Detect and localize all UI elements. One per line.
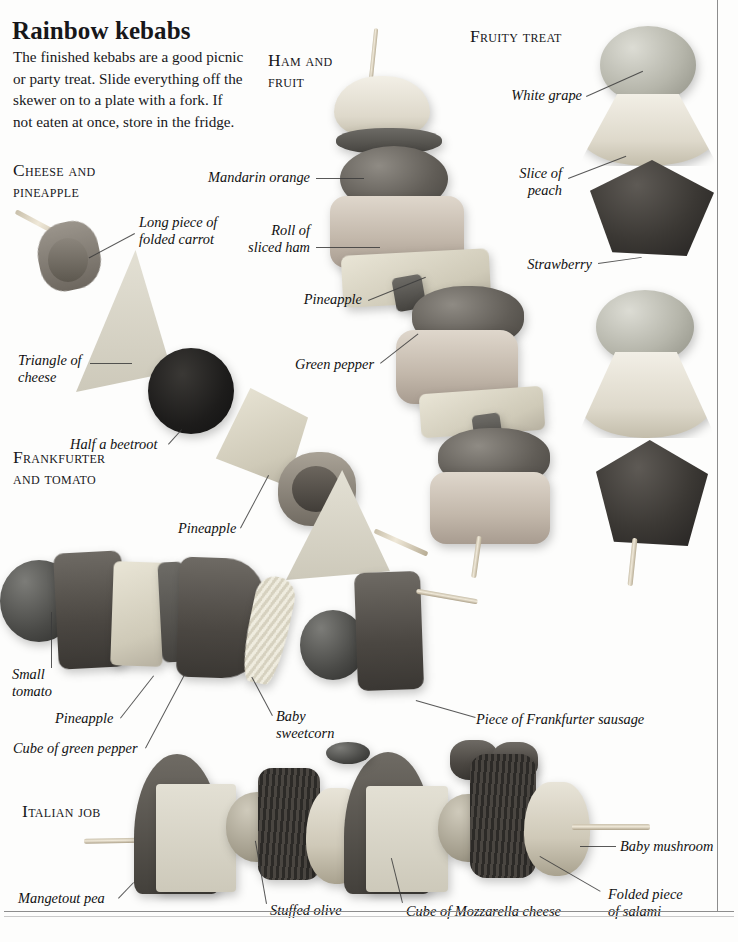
label-baby-mushroom: Baby mushroom — [620, 838, 713, 855]
label-half-a-beetroot: Half a beetroot — [70, 436, 157, 453]
page-border-right — [717, 0, 718, 912]
label-piece-of-frankfurter-sausage: Piece of Frankfurter sausage — [476, 711, 644, 728]
food-strawberry — [590, 160, 714, 256]
skewer-tip — [416, 589, 478, 605]
leader-line-roll-of-sliced-ham — [316, 247, 380, 248]
skewer-tip — [572, 824, 650, 830]
leader-line-mandarin-orange — [316, 178, 364, 179]
page-border-bottom-secondary — [4, 916, 734, 917]
leader-line-baby-mushroom — [580, 846, 616, 847]
leader-line-triangle-of-cheese — [90, 363, 132, 364]
section-heading-cheese-and-pineapple: Cheese and pineapple — [13, 160, 95, 203]
label-pineapple-ham: Pineapple — [220, 291, 362, 308]
label-white-grape: White grape — [470, 87, 582, 104]
label-pineapple-mid: Pineapple — [178, 520, 236, 537]
food-frankfurter-piece-3 — [354, 571, 424, 691]
section-heading-ham-and-fruit: Ham and fruit — [268, 50, 332, 93]
label-roll-of-sliced-ham: Roll of sliced ham — [180, 222, 310, 257]
food-cube-of-mozzarella-cheese — [156, 784, 236, 892]
leader-line-small-tomato — [51, 612, 52, 668]
photograph-plate — [0, 0, 738, 942]
food-white-grape — [600, 26, 696, 104]
food-cube-of-mozzarella-cheese-2 — [366, 786, 448, 892]
section-heading-italian-job: Italian job — [22, 801, 101, 822]
label-strawberry: Strawberry — [470, 256, 592, 273]
skewer-tip — [628, 538, 638, 586]
page-title: Rainbow kebabs — [12, 18, 191, 44]
food-slice-of-peach — [578, 94, 718, 166]
label-slice-of-peach: Slice of peach — [470, 165, 562, 200]
food-slice-of-peach-2 — [576, 352, 716, 438]
intro-paragraph: The finished kebabs are a good picnic or… — [13, 46, 245, 132]
food-olive-offcut — [326, 742, 370, 764]
food-roll-of-sliced-ham-3 — [430, 472, 550, 544]
cookbook-page: Rainbow kebabs The finished kebabs are a… — [0, 0, 738, 942]
section-heading-frankfurter-and-tomato: Frankfurter and tomato — [13, 447, 105, 490]
label-small-tomato: Small tomato — [12, 666, 52, 701]
label-green-pepper: Green pepper — [220, 356, 374, 373]
label-mandarin-orange: Mandarin orange — [150, 169, 310, 186]
page-border-bottom — [4, 911, 734, 912]
section-heading-fruity-treat: Fruity treat — [470, 26, 562, 47]
label-cube-of-green-pepper: Cube of green pepper — [13, 740, 138, 757]
label-pineapple-frank: Pineapple — [55, 710, 113, 727]
label-mangetout-pea: Mangetout pea — [18, 890, 105, 907]
label-triangle-of-cheese: Triangle of cheese — [18, 352, 82, 387]
label-baby-sweetcorn: Baby sweetcorn — [276, 708, 334, 743]
food-folded-carrot-inner — [48, 238, 88, 282]
food-strawberry-2 — [596, 440, 708, 546]
skewer-tip — [373, 528, 428, 556]
